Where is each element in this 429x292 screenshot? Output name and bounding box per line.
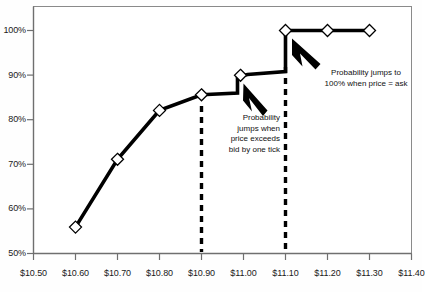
x-tick-label: $11.00	[220, 268, 268, 278]
x-tick-label: $10.50	[10, 268, 58, 278]
x-tick-label: $11.30	[346, 268, 394, 278]
x-tick-label: $10.80	[136, 268, 184, 278]
bid-annotation-text: Probability jumps when price exceeds bid…	[198, 113, 280, 155]
y-tick-label: 90%	[0, 70, 26, 80]
y-tick-label: 100%	[0, 25, 26, 35]
x-tick-label: $11.10	[262, 268, 310, 278]
x-tick-label: $11.40	[388, 268, 429, 278]
y-tick-label: 60%	[0, 203, 26, 213]
x-tick-label: $11.20	[304, 268, 352, 278]
y-tick-label: 50%	[0, 248, 26, 258]
y-tick-label: 70%	[0, 159, 26, 169]
x-tick-label: $10.90	[178, 268, 226, 278]
y-tick-label: 80%	[0, 114, 26, 124]
x-axis-ticks	[34, 254, 412, 261]
x-tick-label: $10.60	[52, 268, 100, 278]
ask-annotation-text: Probability jumps to 100% when price = a…	[314, 68, 418, 89]
y-axis-ticks	[27, 31, 34, 254]
x-tick-label: $10.70	[94, 268, 142, 278]
